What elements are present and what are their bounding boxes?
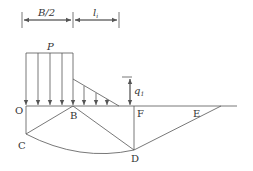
dimension-lines <box>22 12 119 28</box>
length-label: li <box>93 7 98 19</box>
point-o-label: O <box>15 105 23 116</box>
surcharge-dimension <box>122 77 132 105</box>
triangular-load <box>73 79 119 106</box>
point-e-label: E <box>193 108 200 119</box>
slip-surface-diagram: B/2 li P q1 O B C D F E <box>0 0 253 171</box>
failure-surface <box>26 106 221 154</box>
point-b-label: B <box>70 110 77 121</box>
uniform-load-p <box>26 53 73 105</box>
point-f-label: F <box>137 108 144 119</box>
point-d-label: D <box>131 153 139 164</box>
half-width-label: B/2 <box>37 7 55 18</box>
load-p-label: P <box>46 41 54 52</box>
point-c-label: C <box>18 140 26 151</box>
surcharge-label: q1 <box>134 85 144 97</box>
